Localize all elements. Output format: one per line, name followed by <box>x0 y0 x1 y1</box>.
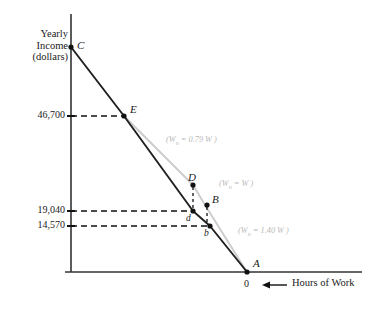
y-tick-label-46700: 46,700 <box>17 110 65 120</box>
annotation-079-open: (W <box>166 135 176 144</box>
point-label-D: D <box>188 172 196 183</box>
annotation-079-rest: = 0.79 W ) <box>179 135 217 144</box>
x-axis-title: Hours of Work <box>292 278 355 289</box>
data-point-d <box>190 208 195 213</box>
x-axis-direction-arrow <box>262 282 287 289</box>
y-tick-label-14570: 14,570 <box>17 220 65 230</box>
point-label-C: C <box>77 40 84 51</box>
data-point-E <box>121 113 126 118</box>
y-axis-title-line-1: Yearly <box>14 28 68 40</box>
annotation-140-open: (W <box>238 226 248 235</box>
point-label-A: A <box>253 258 260 269</box>
y-axis-title-line-3: (dollars) <box>14 51 68 63</box>
annotation-net-wage-079: (Wn = 0.79 W ) <box>166 136 217 146</box>
data-point-D <box>190 182 195 187</box>
data-point-B <box>204 202 209 207</box>
point-label-B: B <box>212 194 219 205</box>
annotation-140-rest: = 1.40 W ) <box>251 226 289 235</box>
y-axis-title: Yearly Income (dollars) <box>14 28 68 63</box>
annotation-net-wage-140: (Wn = 1.40 W ) <box>238 227 289 237</box>
annotation-equal-rest: = W ) <box>232 179 254 188</box>
point-label-E: E <box>130 104 137 115</box>
chart-figure: Yearly Income (dollars) 46,700 19,040 14… <box>0 0 368 310</box>
point-label-d: d <box>186 214 191 224</box>
data-point-A <box>244 269 249 274</box>
y-tick-label-19040: 19,040 <box>17 205 65 215</box>
origin-label: 0 <box>244 279 249 289</box>
budget-constraint-line <box>71 47 247 272</box>
annotation-equal-open: (W <box>219 179 229 188</box>
y-axis-title-line-2: Income <box>14 40 68 52</box>
point-label-b: b <box>204 229 209 239</box>
data-point-C <box>68 44 73 49</box>
annotation-net-wage-equal: (Wn = W ) <box>219 180 253 190</box>
